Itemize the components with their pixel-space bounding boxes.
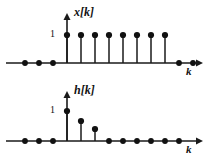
stem-plot-x [0,0,204,82]
signal-label-h: h[k] [74,84,95,96]
x-axis-label: k [186,66,192,77]
x-axis-arrow-icon [196,138,203,145]
discrete-signal-figure: x[k] 1 k [0,0,204,162]
sample-dot [36,138,42,144]
stem-group-impulse-response [64,108,98,141]
y-axis-arrow-icon [64,91,71,98]
sample-dot [64,32,70,38]
sample-dot [162,32,168,38]
signal-label-x: x[k] [74,6,94,18]
y-tick-label-one: 1 [50,105,55,115]
sample-dot [78,32,84,38]
sample-dot [176,60,182,66]
x-axis-arrow-icon [196,60,203,67]
y-tick-label-one: 1 [50,29,55,39]
sample-dot [22,60,28,66]
x-axis-label: k [186,144,192,155]
sample-dot [120,32,126,38]
sample-dot [50,60,56,66]
sample-dot [36,60,42,66]
sample-dot [106,138,112,144]
sample-dot [92,126,98,132]
sample-dot [148,32,154,38]
sample-dot [106,32,112,38]
sample-dot [134,138,140,144]
sample-dot [22,138,28,144]
sample-dot [50,138,56,144]
sample-dot [162,138,168,144]
sample-dot [92,32,98,38]
sample-dot [64,108,70,114]
stem-group-unit-pulse [64,32,168,63]
sample-dot [134,32,140,38]
plot-panel-x: x[k] 1 k [0,0,204,82]
plot-panel-h: h[k] 1 k [0,80,204,162]
sample-dot [120,138,126,144]
sample-dot [176,138,182,144]
sample-dot [78,118,84,124]
stem-plot-h [0,80,204,162]
y-axis-arrow-icon [64,13,71,20]
sample-dot [148,138,154,144]
